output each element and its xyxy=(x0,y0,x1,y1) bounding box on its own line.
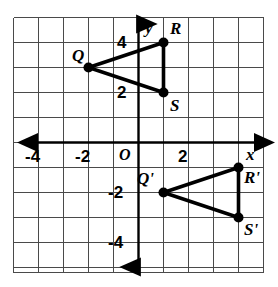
y-tick-label-neg2: -2 xyxy=(108,184,123,201)
x-tick-label-pos2: 2 xyxy=(178,148,187,165)
vertex-r-prime xyxy=(234,163,244,173)
y-axis-label: y xyxy=(145,19,153,36)
origin-label: O xyxy=(119,147,131,163)
point-label-q: Q xyxy=(72,47,84,64)
vertex-r xyxy=(159,38,169,48)
point-label-s: S xyxy=(170,97,179,114)
y-tick-label-pos2: 2 xyxy=(117,84,126,101)
x-tick-label-neg4: -4 xyxy=(25,148,40,165)
x-tick-label-neg2: -2 xyxy=(75,148,90,165)
coordinate-plane-figure: y x -4 -2 2 O 4 2 -2 -4 Q R S Q' R' S' xyxy=(0,0,278,287)
point-label-r: R xyxy=(170,20,181,37)
vertex-s xyxy=(159,88,169,98)
axes xyxy=(36,24,256,267)
point-label-q-prime: Q' xyxy=(137,170,154,187)
x-axis-label: x xyxy=(246,146,255,163)
vertex-s-prime xyxy=(234,213,244,223)
y-tick-label-pos4: 4 xyxy=(117,34,126,51)
vertex-q-prime xyxy=(159,188,169,198)
point-label-s-prime: S' xyxy=(244,221,258,238)
y-tick-label-neg4: -4 xyxy=(108,234,123,251)
point-label-r-prime: R' xyxy=(244,169,260,186)
coordinate-plot xyxy=(0,0,278,287)
vertex-q xyxy=(84,63,94,73)
